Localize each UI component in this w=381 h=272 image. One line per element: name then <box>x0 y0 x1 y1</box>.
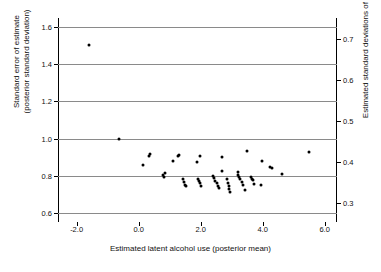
gridline-horizontal <box>58 64 337 65</box>
data-point <box>221 170 224 173</box>
data-point <box>246 149 249 152</box>
data-point <box>228 190 231 193</box>
y-axis-right-tick <box>337 39 341 40</box>
data-point <box>148 153 151 156</box>
data-point <box>241 183 244 186</box>
y-axis-right-tick-label: 0.4 <box>343 157 353 166</box>
y-axis-left-title: Standard error of estimate (posterior st… <box>12 0 31 147</box>
data-point <box>280 173 283 176</box>
gridline-horizontal <box>58 101 337 102</box>
y-axis-left-tick-label: 1.6 <box>42 23 52 32</box>
y-axis-right-tick-label: 0.5 <box>343 117 353 126</box>
data-point <box>270 166 273 169</box>
y-axis-left-tick-label: 0.8 <box>42 171 52 180</box>
y-axis-left-tick <box>54 27 58 28</box>
y-axis-right-tick-label: 0.3 <box>343 198 353 207</box>
data-point <box>260 160 263 163</box>
x-axis-tick-label: 0.0 <box>133 225 143 234</box>
x-axis-title: Estimated latent alcohol use (posterior … <box>0 244 381 254</box>
data-point <box>243 189 246 192</box>
data-point <box>141 164 144 167</box>
y-axis-right-tick <box>337 121 341 122</box>
data-point <box>226 177 229 180</box>
x-axis-tick-label: 6.0 <box>319 225 329 234</box>
y-axis-left-tick <box>54 213 58 214</box>
y-axis-left-tick <box>54 176 58 177</box>
data-point <box>177 153 180 156</box>
y-axis-right-tick <box>337 203 341 204</box>
data-point <box>252 179 255 182</box>
y-axis-right-tick <box>337 162 341 163</box>
y-axis-right-tick <box>337 80 341 81</box>
data-point <box>260 183 263 186</box>
y-axis-left-title-line1: Standard error of estimate <box>12 0 22 147</box>
y-axis-left-tick <box>54 139 58 140</box>
data-point <box>308 150 311 153</box>
axis-line-left <box>58 18 59 222</box>
data-point <box>252 182 255 185</box>
data-point <box>88 43 91 46</box>
y-axis-left-title-line2: (posterior standard deviation) <box>21 0 31 147</box>
y-axis-right-tick-label: 0.6 <box>343 76 353 85</box>
y-axis-right-tick-label: 0.7 <box>343 35 353 44</box>
data-point <box>118 137 121 140</box>
x-axis-tick-label: -2.0 <box>70 225 83 234</box>
x-axis-tick-label: 4.0 <box>257 225 267 234</box>
data-point <box>163 172 166 175</box>
plot-area: 0.60.81.01.21.41.6 0.30.40.50.60.7 -2.00… <box>58 18 337 222</box>
y-axis-right-title: Estimated standard deviations of θ <box>361 0 371 142</box>
gridline-horizontal <box>58 176 337 177</box>
data-point <box>185 185 188 188</box>
gridline-horizontal <box>58 27 337 28</box>
data-point <box>198 155 201 158</box>
scatter-plot-figure: Standard error of estimate (posterior st… <box>0 0 381 272</box>
data-point <box>220 156 223 159</box>
data-point <box>200 184 203 187</box>
y-axis-left-tick <box>54 101 58 102</box>
data-point <box>171 160 174 163</box>
y-axis-left-tick-label: 1.4 <box>42 60 52 69</box>
y-axis-left-tick <box>54 64 58 65</box>
gridline-horizontal <box>58 213 337 214</box>
x-axis-tick-label: 2.0 <box>195 225 205 234</box>
gridline-horizontal <box>58 139 337 140</box>
y-axis-left-tick-label: 0.6 <box>42 208 52 217</box>
y-axis-left-tick-label: 1.0 <box>42 134 52 143</box>
data-point <box>217 186 220 189</box>
y-axis-left-tick-label: 1.2 <box>42 97 52 106</box>
data-point <box>163 176 166 179</box>
axis-line-right <box>336 18 337 222</box>
data-point <box>195 160 198 163</box>
